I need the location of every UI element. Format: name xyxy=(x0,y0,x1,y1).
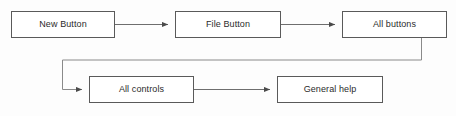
node-file-button[interactable]: File Button xyxy=(175,11,281,38)
node-general-help[interactable]: General help xyxy=(277,76,383,103)
node-all-controls[interactable]: All controls xyxy=(89,76,194,103)
node-all-buttons-label: All buttons xyxy=(373,19,416,30)
node-all-controls-label: All controls xyxy=(119,84,164,95)
node-all-buttons[interactable]: All buttons xyxy=(342,11,447,38)
node-new-button[interactable]: New Button xyxy=(11,11,115,38)
node-new-button-label: New Button xyxy=(39,19,87,30)
node-general-help-label: General help xyxy=(304,84,357,95)
node-file-button-label: File Button xyxy=(206,19,250,30)
flowchart-diagram: New Button File Button All buttons All c… xyxy=(0,0,456,116)
